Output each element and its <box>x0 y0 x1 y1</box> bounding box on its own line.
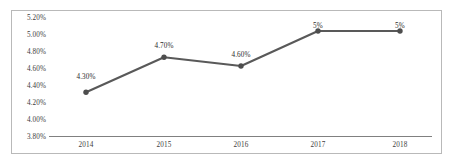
chart-figure: 5.20% 5.00% 4.80% 4.60% 4.40% 4.20% 4.00… <box>0 0 453 163</box>
data-point-label: 5% <box>395 22 405 30</box>
x-axis-tick-label: 2016 <box>234 141 249 149</box>
series-marker <box>238 63 243 68</box>
line-chart-plot <box>0 0 453 163</box>
data-point-label: 5% <box>313 22 323 30</box>
data-point-label: 4.70% <box>154 42 173 50</box>
series-line <box>86 31 400 92</box>
data-point-label: 4.60% <box>231 51 250 59</box>
data-point-label: 4.30% <box>76 73 95 81</box>
x-axis-tick-label: 2015 <box>157 141 172 149</box>
series-marker <box>161 55 166 60</box>
series-marker <box>83 90 88 95</box>
x-axis-tick-label: 2017 <box>311 141 326 149</box>
x-axis-tick-label: 2014 <box>79 141 94 149</box>
series-markers <box>83 28 402 95</box>
x-axis-tick-label: 2018 <box>393 141 408 149</box>
